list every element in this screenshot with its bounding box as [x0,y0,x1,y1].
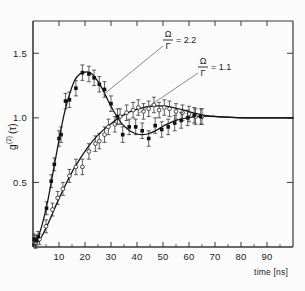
x-tick-label-20: 20 [79,251,90,262]
y-tick-label-0.5: 0.5 [13,177,27,188]
y-tick-label-1.5: 1.5 [13,48,27,59]
photon-correlation-plot: 102030405060708090 0.51.01.5 Ω Γ = 2.2 Ω… [0,0,305,291]
x-tick-label-80: 80 [235,251,246,262]
annotation-omega-2p2-denominator: Γ [166,41,171,51]
x-tick-label-70: 70 [209,251,220,262]
x-tick-labels: 102030405060708090 [53,251,272,262]
x-tick-label-60: 60 [183,251,194,262]
annotation-omega-1p1-denominator: Γ [201,68,206,78]
figure-container: 102030405060708090 0.51.01.5 Ω Γ = 2.2 Ω… [0,0,305,291]
y-axis-title-superscript: (2) [5,136,13,144]
x-tick-label-10: 10 [53,251,64,262]
y-axis-title-base: g [7,144,18,150]
annotation-omega-2p2-numerator: Ω [165,29,172,39]
x-axis-title: time [ns] [254,267,288,277]
y-tick-label-1: 1.0 [13,112,27,123]
x-tick-label-30: 30 [105,251,116,262]
annotation-omega-1p1-numerator: Ω [200,56,207,66]
x-tick-label-90: 90 [261,251,272,262]
x-tick-label-50: 50 [157,251,168,262]
x-tick-label-40: 40 [131,251,142,262]
annotation-omega-2p2-value: = 2.2 [176,35,196,45]
y-axis-title-argument: (τ) [7,123,18,134]
annotation-omega-1p1-value: = 1.1 [211,62,231,72]
